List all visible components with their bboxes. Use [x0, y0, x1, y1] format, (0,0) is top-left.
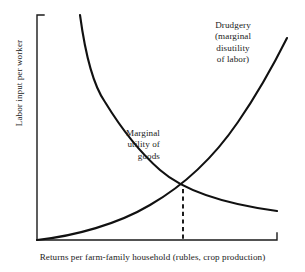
y-axis — [37, 15, 44, 240]
chart-figure: Drudgery (marginal disutility of labor) … — [0, 0, 305, 272]
x-axis-title: Returns per farm-family household (ruble… — [0, 252, 305, 262]
y-axis-title: Labor input per worker — [14, 28, 24, 138]
annotation-marginal-utility: Marginal utility of goods — [78, 128, 160, 162]
curve-drudgery — [37, 38, 287, 240]
annotation-drudgery: Drudgery (marginal disutility of labor) — [196, 20, 270, 66]
